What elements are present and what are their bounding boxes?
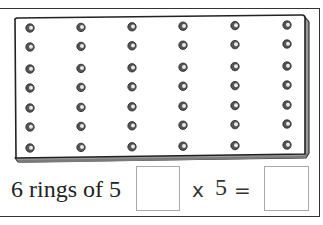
pegboard-illustration [0, 0, 323, 170]
answer-box-groups[interactable] [136, 166, 180, 211]
peg-hole-highlight [286, 122, 290, 126]
times-symbol: x [192, 178, 204, 202]
peg-hole-highlight [131, 25, 135, 29]
peg-hole-highlight [131, 124, 135, 128]
peg-hole-highlight [131, 85, 135, 89]
peg-hole-highlight [234, 143, 238, 147]
peg-hole-highlight [182, 104, 186, 108]
peg-hole-highlight [29, 86, 33, 90]
peg-hole-highlight [80, 105, 84, 109]
peg-hole-highlight [286, 103, 290, 107]
peg-hole-highlight [182, 43, 186, 47]
peg-hole-highlight [29, 26, 33, 30]
peg-hole-highlight [182, 84, 186, 88]
peg-hole-highlight [234, 83, 238, 87]
peg-hole-highlight [234, 23, 238, 27]
peg-hole-highlight [234, 122, 238, 126]
peg-hole-highlight [286, 64, 290, 68]
peg-hole-highlight [182, 123, 186, 127]
multiplier-value: 5 [215, 174, 227, 201]
peg-hole-highlight [29, 67, 33, 71]
peg-hole-highlight [182, 24, 186, 28]
peg-hole-highlight [131, 105, 135, 109]
peg-hole-highlight [29, 146, 33, 150]
peg-hole-highlight [234, 103, 238, 107]
peg-hole-highlight [80, 44, 84, 48]
peg-hole-highlight [131, 145, 135, 149]
rings-label: 6 rings of 5 [11, 176, 121, 203]
peg-hole-highlight [80, 85, 84, 89]
peg-hole-highlight [131, 44, 135, 48]
peg-hole-highlight [286, 42, 290, 46]
peg-hole-highlight [286, 83, 290, 87]
peg-hole-highlight [29, 45, 33, 49]
peg-hole-highlight [29, 125, 33, 129]
peg-hole-highlight [29, 106, 33, 110]
peg-hole-highlight [182, 65, 186, 69]
pegboard [0, 0, 323, 170]
peg-hole-highlight [131, 66, 135, 70]
answer-box-total[interactable] [264, 166, 309, 211]
peg-hole-highlight [234, 64, 238, 68]
peg-hole-highlight [80, 124, 84, 128]
peg-hole-highlight [286, 23, 290, 27]
peg-hole-highlight [234, 42, 238, 46]
peg-hole-highlight [80, 145, 84, 149]
peg-hole-highlight [80, 66, 84, 70]
peg-hole-highlight [182, 144, 186, 148]
equals-symbol: = [234, 178, 251, 202]
peg-hole-highlight [286, 143, 290, 147]
peg-hole-highlight [80, 25, 84, 29]
